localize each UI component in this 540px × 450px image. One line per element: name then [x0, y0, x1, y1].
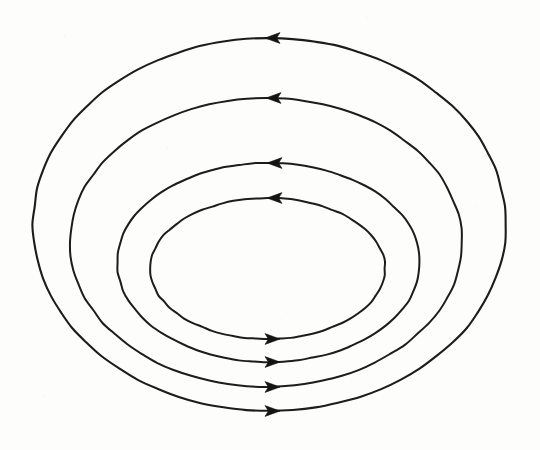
arrows-group: [265, 33, 282, 417]
loops-group: [32, 38, 505, 411]
field-loop-2: [117, 163, 419, 362]
field-line-diagram: [0, 0, 540, 450]
field-loop-4: [32, 38, 505, 411]
diagram-canvas: [0, 0, 540, 450]
field-loop-1: [150, 198, 385, 339]
